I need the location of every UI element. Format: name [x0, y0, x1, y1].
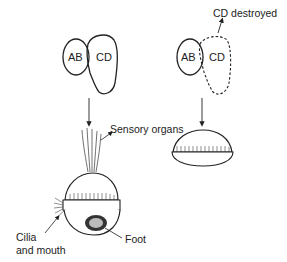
right-embryo: [177, 37, 231, 95]
left-band: [63, 200, 120, 212]
foot-label: Foot: [125, 233, 146, 245]
cilia-label-line2: and mouth: [16, 244, 66, 256]
left-embryo: [63, 35, 117, 94]
left-cd-cell: [87, 35, 117, 94]
sensory-tuft: [82, 128, 101, 172]
foot-pointer: [105, 228, 122, 238]
right-ab-label: AB: [181, 51, 196, 63]
cd-destroyed-arrow: [218, 20, 222, 33]
right-larva: [172, 130, 233, 166]
left-larva: [45, 128, 122, 238]
left-cd-label: CD: [96, 51, 112, 63]
cd-destroyed-label: CD destroyed: [213, 7, 277, 19]
cilia-label-line1: Cilia: [16, 231, 36, 243]
cilia-pointer: [45, 217, 58, 233]
sensory-organs-label: Sensory organs: [110, 123, 184, 135]
right-cd-cell-destroyed: [199, 37, 230, 95]
right-cd-label: CD: [209, 51, 225, 63]
left-ab-label: AB: [68, 51, 83, 63]
